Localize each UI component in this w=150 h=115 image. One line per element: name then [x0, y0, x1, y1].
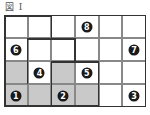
grid-cell [4, 61, 28, 84]
grid-cell [75, 38, 99, 61]
thick-border [145, 15, 146, 107]
grid-cell [51, 15, 75, 38]
thick-border [51, 61, 98, 63]
grid-cell: 1 [4, 84, 28, 107]
thick-border [27, 38, 29, 84]
puzzle-grid: 86745123 [4, 15, 146, 107]
grid-cell: 5 [75, 61, 99, 84]
grid-cell [4, 15, 28, 38]
number-circle: 7 [129, 44, 140, 55]
number-circle: 2 [58, 90, 69, 101]
grid-cell [99, 61, 123, 84]
thick-border [51, 15, 53, 38]
number-circle: 5 [81, 67, 92, 78]
number-circle: 3 [129, 90, 140, 101]
grid-cell [28, 38, 52, 61]
thick-border [4, 15, 51, 17]
grid-cell [28, 15, 52, 38]
number-circle: 8 [81, 21, 92, 32]
grid-cell: 7 [122, 38, 146, 61]
thick-border [51, 61, 53, 107]
grid-cell [99, 15, 123, 38]
grid-cell [75, 84, 99, 107]
grid-cell [122, 15, 146, 38]
thick-border [98, 61, 100, 107]
grid-cell [28, 84, 52, 107]
grid-cell: 8 [75, 15, 99, 38]
grid-cell [51, 61, 75, 84]
number-circle: 4 [34, 67, 45, 78]
number-circle: 6 [10, 44, 21, 55]
grid-cell [122, 61, 146, 84]
thick-border [74, 38, 76, 61]
grid-cell [99, 38, 123, 61]
grid-cell: 4 [28, 61, 52, 84]
thick-border [28, 38, 75, 40]
grid-cell [51, 38, 75, 61]
thick-border [4, 15, 6, 107]
grid-cell: 6 [4, 38, 28, 61]
figure-title: 図 I [5, 0, 23, 13]
grid-cell [99, 84, 123, 107]
number-circle: 1 [10, 90, 21, 101]
grid-cell: 2 [51, 84, 75, 107]
grid-cell: 3 [122, 84, 146, 107]
